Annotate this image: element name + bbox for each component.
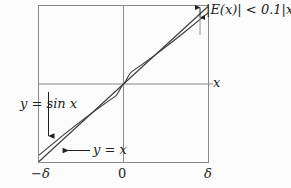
x-axis-label: x (213, 76, 220, 89)
x-tick-label-zero: 0 (118, 167, 126, 180)
error-bound-label: |E(x)| < 0.1|x| (206, 3, 291, 16)
x-tick-label-negative-delta: −δ (31, 167, 50, 180)
line-curve-label: y = x (93, 143, 127, 156)
sine-approximation-figure: |E(x)| < 0.1|x| y = sin x y = x x −δ 0 δ (0, 0, 291, 188)
x-tick-label-positive-delta: δ (204, 167, 212, 180)
sine-curve-label: y = sin x (20, 97, 77, 110)
plot-area (0, 0, 291, 188)
